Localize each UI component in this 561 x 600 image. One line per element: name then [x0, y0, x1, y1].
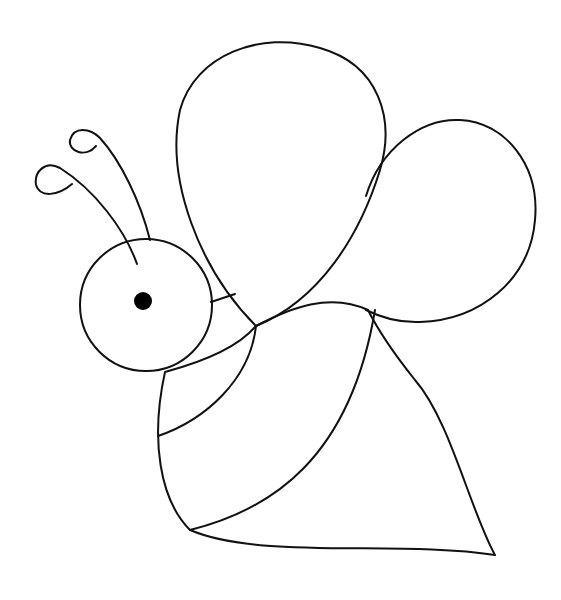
body [158, 294, 495, 555]
bee-drawing [0, 0, 561, 600]
wing-back [366, 120, 535, 322]
antenna-left [36, 165, 137, 264]
eye-dot [134, 292, 152, 310]
